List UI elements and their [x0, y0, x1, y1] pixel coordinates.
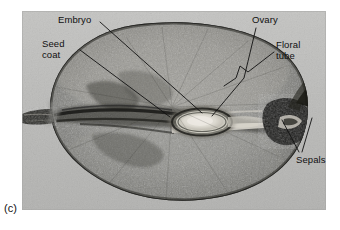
label-sepals-line-1: Sepals [296, 155, 326, 166]
figure-letter: (c) [4, 202, 17, 214]
label-seed-coat-line-1: Seed [42, 38, 65, 49]
label-floral-tube: Floral tube [276, 39, 300, 61]
label-ovary-line-1: Ovary [252, 15, 278, 26]
label-floral-tube-line-2: tube [276, 50, 300, 61]
label-embryo: Embryo [58, 15, 91, 26]
label-seed-coat-line-2: coat [42, 49, 65, 60]
embryo-structure [168, 106, 236, 138]
label-floral-tube-line-1: Floral [276, 39, 300, 50]
label-sepals: Sepals [296, 155, 326, 166]
figure-container: Embryo Seed coat Ovary Floral tube Sepal… [0, 0, 340, 230]
label-seed-coat: Seed coat [42, 38, 65, 60]
label-embryo-line-1: Embryo [58, 15, 91, 26]
label-ovary: Ovary [252, 15, 278, 26]
